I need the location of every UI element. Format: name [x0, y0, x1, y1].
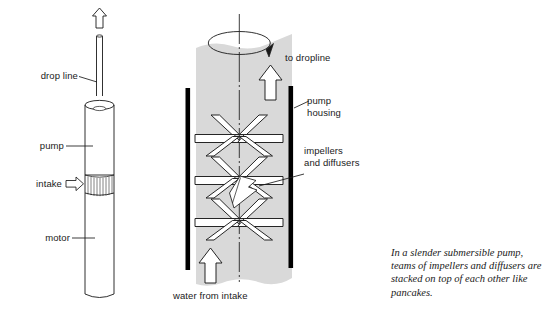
label-impellers-line1: impellers [304, 145, 343, 157]
label-drop-line: drop line [8, 70, 78, 82]
intake-arrow-icon [66, 177, 84, 191]
caption-line-3: stacked on top of each other like [391, 272, 557, 285]
figure-caption: In a slender submersible pump, teams of … [391, 246, 557, 299]
label-pump-housing-line2: housing [307, 107, 341, 119]
label-to-dropline: to dropline [285, 52, 330, 64]
pump-body [85, 100, 114, 175]
outlet-arrow-icon [93, 8, 107, 28]
left-pump-exterior [66, 8, 114, 298]
label-water-from-intake: water from intake [173, 290, 248, 302]
caption-line-1: In a slender submersible pump, [391, 246, 557, 259]
label-pump-housing-line1: pump [307, 95, 331, 107]
motor-body [85, 193, 114, 298]
label-pump: pump [8, 140, 64, 152]
caption-line-2: teams of impellers and diffusers are [391, 259, 557, 272]
intake-screen [85, 175, 114, 196]
label-intake: intake [2, 178, 62, 190]
figure-root: drop line pump intake motor to dropline … [0, 0, 558, 316]
caption-line-4: pancakes. [391, 286, 557, 299]
label-motor: motor [8, 232, 70, 244]
drop-line-pipe [97, 35, 103, 96]
label-impellers-line2: and diffusers [304, 157, 360, 169]
